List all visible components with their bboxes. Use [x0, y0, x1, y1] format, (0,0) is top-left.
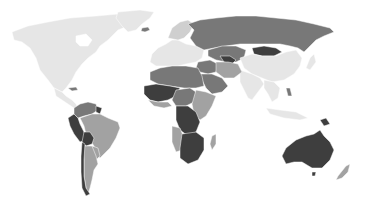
caribbean [68, 87, 78, 91]
papua-new-guinea [320, 118, 330, 126]
japan [306, 54, 316, 70]
australia [282, 130, 334, 168]
tasmania [312, 172, 316, 176]
mongolia [252, 46, 282, 56]
madagascar [210, 134, 216, 150]
southeast-asia [264, 80, 280, 102]
philippines [286, 88, 292, 96]
iceland [141, 27, 150, 32]
map-canvas [0, 0, 374, 214]
indonesia [266, 108, 308, 120]
world-choropleth-map [0, 0, 374, 214]
central-america [54, 88, 78, 108]
north-america [12, 14, 134, 92]
scandinavia [168, 20, 194, 40]
new-zealand [336, 164, 350, 180]
iran-afghanistan [216, 62, 242, 78]
guianas [96, 106, 102, 114]
southern-africa [180, 132, 204, 164]
